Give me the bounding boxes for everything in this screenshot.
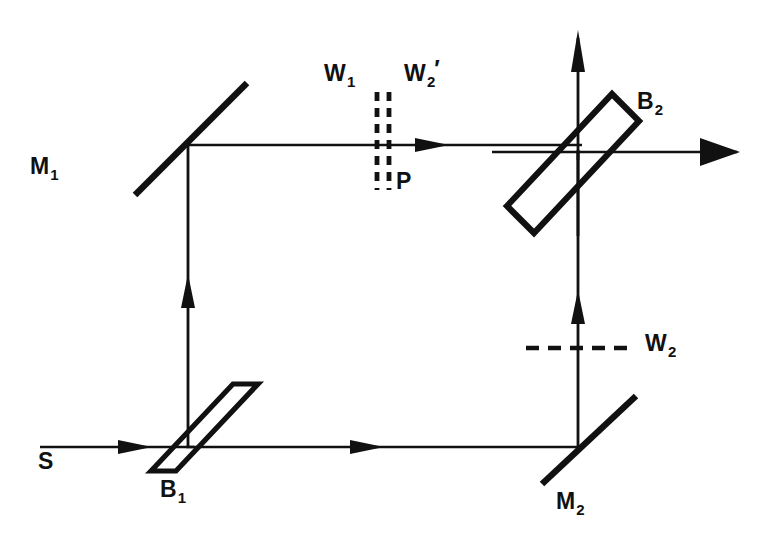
beam-splitters — [151, 94, 639, 471]
label-source-base: S — [38, 448, 54, 474]
arrowhead-bottom-arm — [350, 440, 384, 454]
label-w2p-base: W — [404, 60, 426, 86]
label-b1-base: B — [160, 476, 177, 502]
label-b2-sub: 2 — [655, 101, 663, 118]
beamsplitter-b2 — [507, 94, 639, 233]
label-splitter-b2: B2 — [637, 90, 662, 113]
label-wavefront-w1: W1 — [324, 62, 354, 85]
label-m2-sub: 2 — [576, 501, 584, 518]
label-w1-sub: 1 — [347, 73, 355, 90]
label-p-base: P — [396, 168, 412, 194]
label-mirror-m1: M1 — [30, 155, 58, 178]
beamsplitter-b1 — [151, 384, 258, 471]
arrowhead-output-up — [571, 30, 585, 72]
mirrors — [135, 83, 636, 484]
interferometer-figure: S M1 M2 B1 B2 W1 W2′ W2 P — [0, 0, 776, 547]
label-w1-base: W — [324, 60, 346, 86]
label-w2-sub: 2 — [668, 343, 676, 360]
label-source: S — [38, 450, 54, 473]
arrowhead-output-right — [700, 138, 740, 166]
label-m2-base: M — [556, 488, 575, 514]
label-m1-sub: 1 — [50, 166, 58, 183]
mirror-m1 — [135, 83, 247, 195]
label-w2-base: W — [645, 330, 667, 356]
label-m1-base: M — [30, 153, 49, 179]
label-wavefront-w2-prime: W2′ — [404, 62, 440, 85]
mirror-m2 — [542, 396, 636, 484]
label-w2p-prime: ′ — [434, 56, 440, 82]
label-b2-base: B — [637, 88, 654, 114]
arrowhead-top-arm — [415, 138, 449, 152]
label-wavefront-w2: W2 — [645, 332, 675, 355]
label-b1-sub: 1 — [178, 489, 186, 506]
arrowhead-right-arm-up — [571, 290, 585, 324]
label-splitter-b1: B1 — [160, 478, 185, 501]
label-mirror-m2: M2 — [556, 490, 584, 513]
diagram-canvas — [0, 0, 776, 547]
label-plane-p: P — [396, 170, 412, 193]
arrowhead-input — [118, 440, 152, 454]
wavefront-planes — [377, 92, 633, 348]
arrowhead-left-arm-up — [181, 274, 195, 308]
